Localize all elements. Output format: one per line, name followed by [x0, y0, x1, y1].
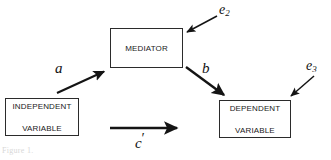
error-term-label-e2: e2 — [219, 2, 230, 18]
node-independent-variable: INDEPENDENT VARIABLE — [5, 98, 79, 136]
node-dependent-variable-label-line1: DEPENDENT — [228, 103, 283, 114]
arrow-error-e3 — [291, 76, 314, 96]
node-dependent-variable-label-line2: VARIABLE — [228, 125, 283, 136]
node-dependent-variable-label: DEPENDENT VARIABLE — [226, 103, 285, 136]
figure-caption: Figure 1. — [2, 146, 34, 155]
error-term-label-e3: e3 — [306, 58, 317, 74]
arrow-error-e2 — [187, 16, 217, 32]
path-coefficient-label-a: a — [55, 60, 63, 77]
error-term-label-e2-subscript: 2 — [225, 8, 230, 18]
node-independent-variable-label-line2: VARIABLE — [11, 123, 74, 134]
error-term-label-e3-subscript: 3 — [312, 64, 317, 74]
diagram-canvas: MEDIATOR INDEPENDENT VARIABLE DEPENDENT … — [0, 0, 331, 160]
node-independent-variable-label: INDEPENDENT VARIABLE — [9, 101, 76, 134]
node-dependent-variable: DEPENDENT VARIABLE — [219, 100, 291, 138]
arrow-path-a — [57, 72, 104, 94]
node-independent-variable-label-line1: INDEPENDENT — [11, 101, 74, 112]
path-coefficient-label-c-prime: c′ — [135, 130, 145, 152]
node-mediator: MEDIATOR — [110, 28, 183, 68]
prime-mark-icon: ′ — [141, 131, 144, 146]
node-mediator-label: MEDIATOR — [123, 43, 170, 54]
path-coefficient-label-b: b — [202, 60, 210, 77]
